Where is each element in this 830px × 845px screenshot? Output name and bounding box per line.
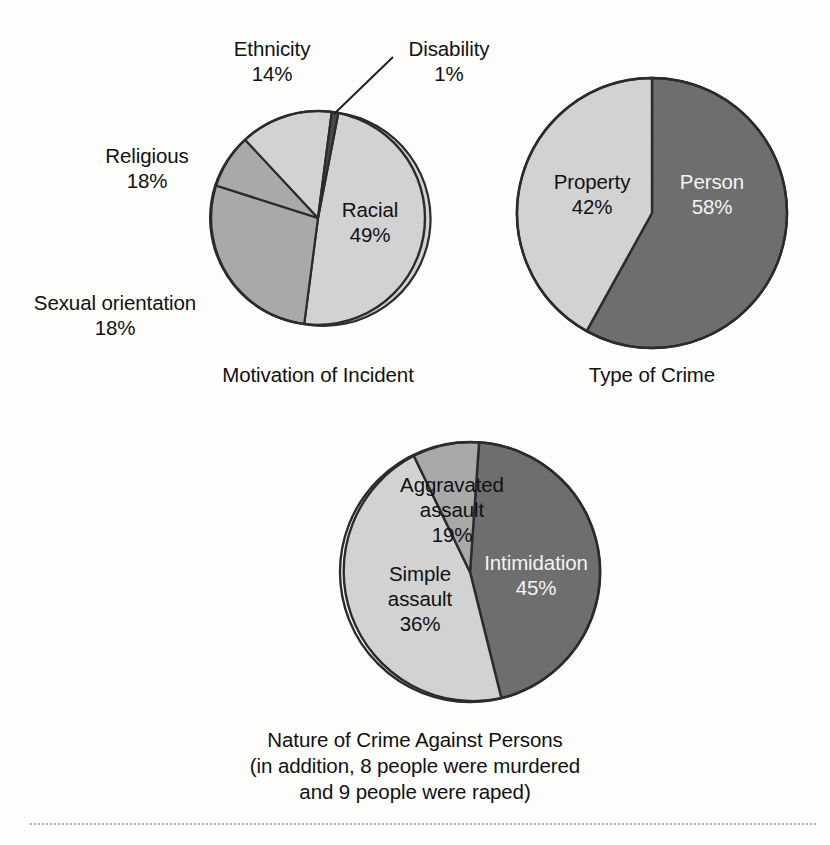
pie1-label-religious: Religious 18% (105, 143, 188, 193)
pie2-label-property: Property 42% (554, 169, 631, 219)
pie3-caption-line2: (in addition, 8 people were murdered (250, 753, 580, 779)
pie3-simple-name-line2: assault (388, 586, 452, 611)
pie3-aggravated-value: 19% (400, 522, 504, 547)
pie1-disability-name: Disability (408, 36, 489, 61)
bottom-dotted-divider (30, 823, 816, 825)
pie3-label-simple-assault: Simple assault 36% (388, 561, 452, 636)
pie1-ethnicity-name: Ethnicity (234, 36, 311, 61)
pie2-property-value: 42% (554, 194, 631, 219)
pie1-religious-value: 18% (105, 168, 188, 193)
pie1-disability-value: 1% (408, 61, 489, 86)
pie3-caption-line1: Nature of Crime Against Persons (250, 727, 580, 753)
disability-leader-line (334, 57, 393, 114)
pie1-label-sexual-orientation: Sexual orientation 18% (34, 290, 196, 340)
pie3-caption-line3: and 9 people were raped) (250, 779, 580, 805)
pie3-simple-name-line1: Simple (388, 561, 452, 586)
pie3-caption: Nature of Crime Against Persons (in addi… (250, 727, 580, 805)
pie3-intimidation-name: Intimidation (484, 550, 588, 575)
pie1-religious-name: Religious (105, 143, 188, 168)
pie2-person-name: Person (680, 169, 744, 194)
pie-charts-svg (0, 0, 830, 845)
pie-chart-motivation (210, 57, 430, 326)
pie1-sexual-orientation-name: Sexual orientation (34, 290, 196, 315)
figure-page: Ethnicity 14% Disability 1% Religious 18… (0, 0, 830, 845)
pie1-label-ethnicity: Ethnicity 14% (234, 36, 311, 86)
pie1-label-disability: Disability 1% (408, 36, 489, 86)
pie2-label-person: Person 58% (680, 169, 744, 219)
pie3-aggravated-name-line2: assault (400, 497, 504, 522)
pie1-racial-name: Racial (342, 197, 398, 222)
pie3-simple-value: 36% (388, 611, 452, 636)
pie1-ethnicity-value: 14% (234, 61, 311, 86)
pie2-person-value: 58% (680, 194, 744, 219)
pie3-label-intimidation: Intimidation 45% (484, 550, 588, 600)
pie3-aggravated-name-line1: Aggravated (400, 472, 504, 497)
pie1-label-racial: Racial 49% (342, 197, 398, 247)
pie2-caption: Type of Crime (589, 362, 715, 388)
pie3-intimidation-value: 45% (484, 575, 588, 600)
pie1-sexual-orientation-value: 18% (34, 315, 196, 340)
pie2-property-name: Property (554, 169, 631, 194)
pie1-racial-value: 49% (342, 222, 398, 247)
pie1-caption: Motivation of Incident (222, 362, 414, 388)
pie3-label-aggravated-assault: Aggravated assault 19% (400, 472, 504, 547)
